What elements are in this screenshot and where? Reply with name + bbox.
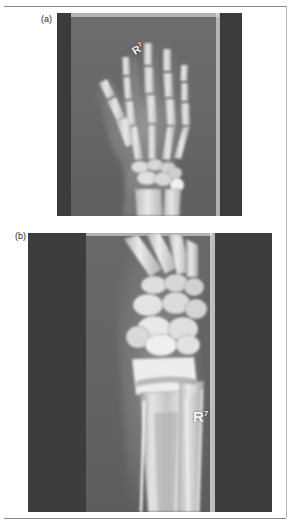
figure-top-rule — [4, 6, 286, 7]
panel-a-hand-anatomy — [57, 13, 242, 216]
panel-a-radiograph[interactable]: R7 — [57, 13, 242, 216]
panel-b-laterality-marker: R7 — [193, 409, 208, 424]
panel-b-radiograph[interactable]: R7 — [28, 233, 272, 512]
figure-right-rule — [286, 6, 287, 518]
radiograph-figure: (a) — [0, 0, 292, 532]
panel-b-letter: (b) — [15, 231, 26, 241]
figure-bottom-rule — [4, 518, 286, 519]
panel-a-letter: (a) — [41, 14, 52, 24]
panel-b-wrist-anatomy — [28, 233, 272, 512]
